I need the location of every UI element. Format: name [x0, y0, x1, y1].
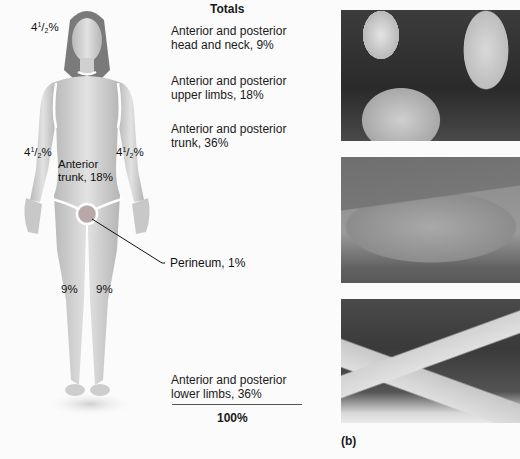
label-right-leg-percent: 9%	[96, 283, 113, 296]
total-line: head and neck, 9%	[171, 38, 286, 52]
perineum-callout: Perineum, 1%	[170, 257, 245, 270]
total-line: Anterior and posterior	[171, 74, 286, 88]
total-line: lower limbs, 36%	[171, 387, 286, 401]
totals-divider	[172, 404, 302, 405]
total-upper-limbs: Anterior and posterior upper limbs, 18%	[171, 74, 286, 102]
label-anterior-trunk: Anterior trunk, 18%	[58, 158, 113, 184]
perineum-region	[77, 204, 97, 224]
label-left-arm-percent: 41/2%	[24, 143, 52, 162]
label-right-arm-percent: 41/2%	[116, 143, 144, 162]
total-line: trunk, 36%	[171, 136, 286, 150]
photo-burned-legs	[341, 299, 520, 423]
body-figure: 41/2% 41/2% 41/2% Anterior trunk, 18% 9%…	[0, 0, 165, 459]
photo-burned-skin-closeup	[341, 157, 520, 283]
anterior-trunk-line1: Anterior	[58, 158, 113, 171]
human-body-illustration	[0, 0, 165, 459]
anterior-trunk-line2: trunk, 18%	[58, 171, 113, 184]
panel-label-b: (b)	[341, 434, 356, 448]
totals-title: Totals	[210, 2, 244, 16]
total-line: Anterior and posterior	[171, 122, 286, 136]
label-left-leg-percent: 9%	[61, 283, 78, 296]
total-line: Anterior and posterior	[171, 24, 286, 38]
label-head-percent: 41/2%	[31, 18, 59, 37]
grand-total: 100%	[217, 411, 248, 425]
photo-sunburned-children	[341, 10, 520, 141]
total-line: Anterior and posterior	[171, 373, 286, 387]
total-trunk: Anterior and posterior trunk, 36%	[171, 122, 286, 150]
total-lower-limbs: Anterior and posterior lower limbs, 36%	[171, 373, 286, 401]
total-line: upper limbs, 18%	[171, 88, 286, 102]
total-head-neck: Anterior and posterior head and neck, 9%	[171, 24, 286, 52]
